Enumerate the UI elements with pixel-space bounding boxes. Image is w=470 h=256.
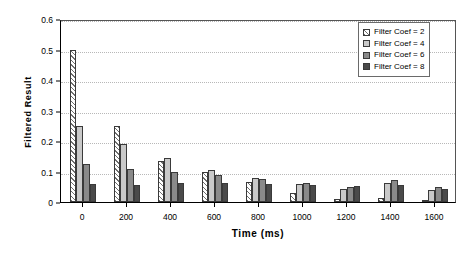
bar bbox=[391, 180, 398, 202]
x-tick-mark bbox=[170, 203, 171, 207]
bar-group bbox=[114, 21, 140, 202]
bar bbox=[222, 183, 229, 202]
legend-swatch-icon bbox=[363, 29, 370, 36]
y-tick-label: 0.3 bbox=[41, 107, 53, 117]
legend-item: Filter Coef = 2 bbox=[363, 27, 424, 38]
bar bbox=[127, 169, 134, 202]
legend-label: Filter Coef = 6 bbox=[374, 51, 424, 59]
bar bbox=[259, 179, 266, 202]
x-tick-mark bbox=[258, 203, 259, 207]
bar-group bbox=[290, 21, 316, 202]
bar bbox=[178, 183, 185, 202]
y-tick-label: 0.5 bbox=[41, 46, 53, 56]
bar bbox=[266, 184, 273, 202]
bar bbox=[435, 187, 442, 202]
bar bbox=[158, 161, 165, 202]
bar bbox=[296, 184, 303, 202]
legend-item: Filter Coef = 4 bbox=[363, 38, 424, 49]
y-tick-label: 0.1 bbox=[41, 168, 53, 178]
bar-chart: Filtered Result 00.10.20.30.40.50.6 0200… bbox=[0, 0, 470, 256]
bar bbox=[76, 126, 83, 202]
x-tick-label: 0 bbox=[80, 212, 85, 222]
bar-group bbox=[70, 21, 96, 202]
legend-label: Filter Coef = 4 bbox=[374, 40, 424, 48]
bar bbox=[422, 200, 429, 202]
x-tick-mark bbox=[390, 203, 391, 207]
bar bbox=[340, 189, 347, 202]
y-tick-label: 0.6 bbox=[41, 15, 53, 25]
y-axis: 00.10.20.30.40.50.6 bbox=[0, 20, 60, 203]
bar bbox=[208, 170, 215, 202]
x-tick-label: 1400 bbox=[381, 212, 400, 222]
bar-group bbox=[246, 21, 272, 202]
x-tick-mark bbox=[302, 203, 303, 207]
legend-swatch-icon bbox=[363, 63, 370, 70]
legend-swatch-icon bbox=[363, 40, 370, 47]
bar-group bbox=[334, 21, 360, 202]
bar bbox=[310, 185, 317, 202]
x-tick-label: 1600 bbox=[425, 212, 444, 222]
legend-item: Filter Coef = 8 bbox=[363, 61, 424, 72]
x-tick-label: 600 bbox=[207, 212, 221, 222]
x-tick-mark bbox=[82, 203, 83, 207]
bar bbox=[428, 190, 435, 202]
bar bbox=[384, 183, 391, 202]
bar bbox=[134, 185, 141, 202]
x-tick-label: 1200 bbox=[337, 212, 356, 222]
bar bbox=[246, 182, 253, 202]
bar bbox=[90, 184, 97, 202]
legend-swatch-icon bbox=[363, 52, 370, 59]
bar bbox=[378, 198, 385, 202]
bar bbox=[398, 185, 405, 202]
y-tick-label: 0.2 bbox=[41, 137, 53, 147]
x-tick-mark bbox=[214, 203, 215, 207]
bar bbox=[303, 183, 310, 202]
x-tick-label: 1000 bbox=[293, 212, 312, 222]
x-tick-label: 200 bbox=[119, 212, 133, 222]
bar-group bbox=[202, 21, 228, 202]
y-tick-label: 0.4 bbox=[41, 76, 53, 86]
x-axis-title: Time (ms) bbox=[60, 228, 456, 239]
legend-item: Filter Coef = 6 bbox=[363, 50, 424, 61]
bar bbox=[290, 193, 297, 202]
x-axis: 02004006008001000120014001600 bbox=[60, 203, 456, 225]
bar bbox=[347, 187, 354, 202]
bar bbox=[202, 172, 209, 202]
x-tick-mark bbox=[434, 203, 435, 207]
bar bbox=[70, 50, 77, 203]
legend-label: Filter Coef = 2 bbox=[374, 28, 424, 36]
bar bbox=[114, 126, 121, 202]
legend: Filter Coef = 2Filter Coef = 4Filter Coe… bbox=[358, 22, 430, 77]
bar bbox=[334, 199, 341, 202]
x-tick-label: 400 bbox=[163, 212, 177, 222]
bar bbox=[252, 178, 259, 202]
x-tick-mark bbox=[126, 203, 127, 207]
bar bbox=[83, 164, 90, 202]
bar bbox=[120, 144, 127, 202]
bar bbox=[164, 158, 171, 202]
x-tick-label: 800 bbox=[251, 212, 265, 222]
y-tick-label: 0 bbox=[48, 198, 53, 208]
x-tick-mark bbox=[346, 203, 347, 207]
legend-label: Filter Coef = 8 bbox=[374, 63, 424, 71]
bar bbox=[171, 172, 178, 202]
bar bbox=[442, 189, 449, 202]
bar bbox=[354, 186, 361, 202]
bar-group bbox=[158, 21, 184, 202]
bar bbox=[215, 175, 222, 202]
